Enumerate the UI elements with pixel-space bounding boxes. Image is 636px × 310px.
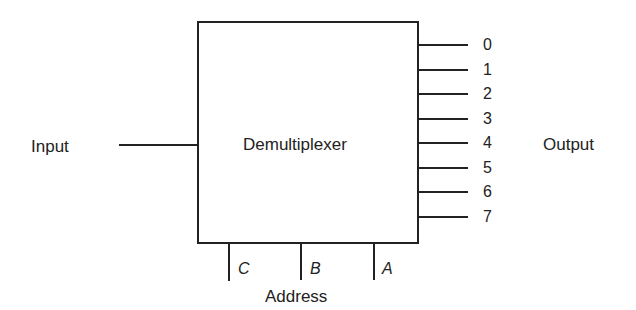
address-c-label: C [238,260,250,278]
output-number: 2 [483,85,492,103]
output-number: 5 [483,159,492,177]
demultiplexer-block [198,22,418,243]
output-number: 1 [483,61,492,79]
output-number: 4 [483,134,492,152]
address-label: Address [265,287,327,307]
output-number: 7 [483,208,492,226]
block-label: Demultiplexer [243,135,347,155]
output-label: Output [543,135,594,155]
address-b-label: B [310,260,321,278]
output-number: 3 [483,110,492,128]
input-label: Input [31,137,69,157]
output-number: 6 [483,183,492,201]
output-number: 0 [483,36,492,54]
address-a-label: A [382,260,393,278]
